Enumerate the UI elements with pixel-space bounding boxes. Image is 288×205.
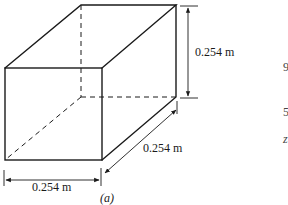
depth-dimension (105, 101, 177, 173)
height-label: 0.254 m (195, 46, 234, 58)
figure-caption: (a) (100, 192, 114, 204)
right-face (102, 5, 176, 160)
box-diagram (0, 0, 288, 205)
top-face (5, 5, 176, 68)
front-face (5, 68, 102, 160)
width-label: 0.254 m (32, 181, 71, 193)
edge-fragment-2: 5 (283, 106, 288, 118)
hidden-edges (5, 5, 176, 160)
edge-fragment-3: z (283, 133, 288, 145)
edge-fragment-1: 9 (283, 61, 288, 73)
depth-label: 0.254 m (143, 142, 182, 154)
